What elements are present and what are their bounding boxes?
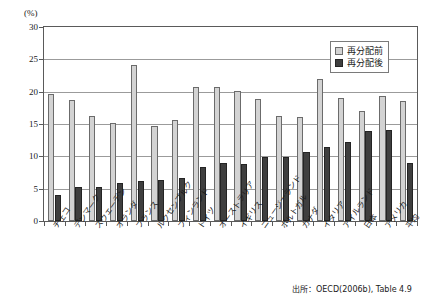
y-axis-tick-label: 20 — [16, 88, 38, 97]
x-axis-tick-mark — [189, 222, 190, 226]
x-axis-tick-mark — [293, 222, 294, 226]
y-axis-unit-label: (%) — [24, 8, 38, 18]
legend-swatch-post-icon — [335, 59, 343, 67]
y-axis-tick-mark — [39, 27, 43, 28]
y-axis-tick-mark — [39, 221, 43, 222]
x-axis-tick-mark — [396, 222, 397, 226]
y-axis-tick-label: 25 — [16, 55, 38, 64]
y-axis-tick-mark — [39, 124, 43, 125]
bar-pre — [317, 79, 323, 221]
legend-label-post: 再分配後 — [347, 58, 383, 68]
x-axis-tick-mark — [44, 222, 45, 226]
bar-pre — [48, 94, 54, 221]
bar-pre — [131, 65, 137, 221]
x-axis-tick-mark — [355, 222, 356, 226]
legend-label-pre: 再分配前 — [347, 46, 383, 56]
y-axis-tick-label: 10 — [16, 152, 38, 161]
bar-pre — [69, 100, 75, 221]
x-axis-tick-mark — [106, 222, 107, 226]
x-axis-tick-mark — [85, 222, 86, 226]
legend-item-pre: 再分配前 — [335, 45, 383, 57]
x-axis-tick-mark — [251, 222, 252, 226]
x-axis-tick-mark — [313, 222, 314, 226]
bar-pre — [214, 87, 220, 221]
legend: 再分配前 再分配後 — [330, 41, 389, 73]
y-axis-tick-label: 30 — [16, 23, 38, 32]
bar-pre — [379, 96, 385, 221]
source-note: 出所：OECD(2006b), Table 4.9 — [292, 283, 412, 294]
x-axis-tick-mark — [376, 222, 377, 226]
bar-post — [345, 142, 351, 221]
gridline — [44, 92, 417, 93]
y-axis-tick-label: 0 — [16, 217, 38, 226]
y-axis-tick-label: 15 — [16, 120, 38, 129]
y-axis-tick-mark — [39, 156, 43, 157]
bar-post — [365, 131, 371, 221]
y-axis-tick-mark — [39, 92, 43, 93]
bar-post — [262, 157, 268, 221]
x-axis-tick-mark — [210, 222, 211, 226]
x-axis-tick-mark — [148, 222, 149, 226]
legend-swatch-pre-icon — [335, 47, 343, 55]
y-axis-tick-mark — [39, 59, 43, 60]
y-axis-tick-label: 5 — [16, 185, 38, 194]
bar-post — [303, 152, 309, 221]
legend-item-post: 再分配後 — [335, 57, 383, 69]
x-axis-tick-mark — [334, 222, 335, 226]
bar-post — [324, 147, 330, 221]
x-axis-tick-mark — [65, 222, 66, 226]
x-axis-tick-mark — [168, 222, 169, 226]
y-axis-tick-mark — [39, 189, 43, 190]
x-axis-tick-mark — [231, 222, 232, 226]
bar-post — [386, 130, 392, 221]
chart-figure: (%) 051015202530 チェコデンマークスウェーデンオランダフランスル… — [0, 0, 444, 304]
